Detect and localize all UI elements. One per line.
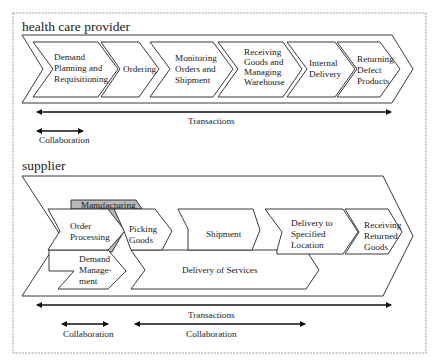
supplier-transactions-label: Transactions [188, 310, 235, 320]
supplier-section: supplier Manufacturing Demand Manage- me… [22, 158, 413, 339]
svg-text:Delivery: Delivery [309, 69, 342, 79]
supplier-collaboration-label-1: Collaboration [63, 329, 114, 339]
svg-text:Managing: Managing [244, 67, 282, 77]
svg-text:Delivery to: Delivery to [291, 218, 333, 228]
svg-text:Returned: Returned [364, 231, 398, 241]
svg-text:Defect: Defect [357, 65, 382, 75]
svg-text:Requisitioning: Requisitioning [54, 74, 109, 84]
svg-text:Receiving: Receiving [244, 47, 282, 57]
svg-text:Location: Location [291, 240, 324, 250]
svg-text:Demand: Demand [54, 52, 86, 62]
hcp-collaboration-label: Collaboration [39, 135, 90, 145]
section-title-health-care-provider: health care provider [22, 19, 130, 34]
svg-text:Warehouse: Warehouse [244, 77, 285, 87]
svg-text:Delivery of Services: Delivery of Services [182, 265, 258, 275]
svg-text:Monitoring: Monitoring [175, 53, 217, 63]
svg-text:Specified: Specified [291, 229, 326, 239]
health-care-provider-section: health care provider Demand Planning and… [22, 19, 413, 145]
svg-text:Receiving: Receiving [364, 220, 402, 230]
svg-text:Order: Order [70, 221, 91, 231]
svg-text:Processing: Processing [70, 232, 110, 242]
svg-text:Shipment: Shipment [206, 229, 242, 239]
svg-text:Planning and: Planning and [54, 63, 103, 73]
svg-text:Returning: Returning [357, 54, 394, 64]
svg-text:Shipment: Shipment [175, 75, 211, 85]
svg-text:Manage-: Manage- [79, 265, 112, 275]
svg-text:Goods: Goods [129, 235, 153, 245]
svg-text:Ordering: Ordering [123, 64, 157, 74]
supplier-collaboration-label-2: Collaboration [186, 329, 237, 339]
svg-text:Demand: Demand [79, 254, 111, 264]
value-chain-diagram: health care provider Demand Planning and… [0, 0, 434, 362]
hcp-transactions-label: Transactions [188, 116, 235, 126]
supplier-step-delivery-of-services: Delivery of Services [131, 250, 319, 289]
manufacturing-label: Manufacturing [81, 200, 136, 210]
svg-text:Products: Products [357, 76, 390, 86]
svg-text:Internal: Internal [309, 58, 338, 68]
svg-text:Goods: Goods [364, 242, 388, 252]
svg-text:Picking: Picking [129, 224, 157, 234]
svg-text:Goods and: Goods and [244, 57, 284, 67]
section-title-supplier: supplier [22, 158, 66, 173]
svg-text:ment: ment [79, 276, 98, 286]
supplier-step-shipment: Shipment [178, 209, 260, 250]
svg-text:Orders and: Orders and [175, 64, 216, 74]
